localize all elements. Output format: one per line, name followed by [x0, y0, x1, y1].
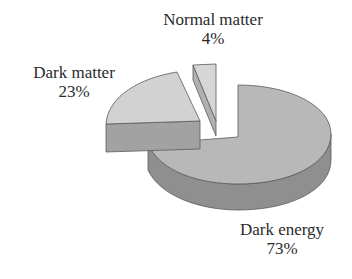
- label-dark-energy-name: Dark energy: [222, 220, 342, 239]
- label-dark-matter-value: 23%: [14, 82, 134, 101]
- label-dark-matter: Dark matter 23%: [14, 63, 134, 101]
- slice-dark-matter-side: [106, 121, 200, 152]
- label-normal-matter: Normal matter 4%: [138, 10, 288, 48]
- label-dark-matter-name: Dark matter: [14, 63, 134, 82]
- label-dark-energy: Dark energy 73%: [222, 220, 342, 258]
- label-dark-energy-value: 73%: [222, 239, 342, 258]
- label-normal-matter-name: Normal matter: [138, 10, 288, 29]
- slice-normal-matter-top: [193, 64, 216, 121]
- label-normal-matter-value: 4%: [138, 29, 288, 48]
